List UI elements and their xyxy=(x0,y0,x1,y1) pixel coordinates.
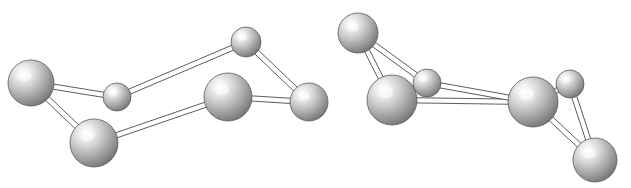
atom-medium-bottom-right-sphere xyxy=(573,138,617,182)
atom-large-right-sphere xyxy=(508,77,558,127)
atom-medium-right-edge-sphere xyxy=(290,83,328,121)
atom-large-center-right xyxy=(204,73,252,121)
atom-small-top-highlight xyxy=(238,34,247,41)
atom-small-left-inner-highlight xyxy=(419,76,427,82)
atom-large-upper-left-sphere xyxy=(8,60,54,106)
atom-large-lower-left-highlight xyxy=(81,131,95,142)
atom-medium-top-left-sphere xyxy=(338,13,378,53)
atom-large-left xyxy=(367,75,417,125)
atom-medium-top-left-highlight xyxy=(347,23,359,32)
atom-medium-right-edge xyxy=(290,83,328,121)
atom-small-upper-mid-sphere xyxy=(103,83,131,111)
atom-large-upper-left-highlight xyxy=(18,71,32,81)
atom-large-center-right-sphere xyxy=(204,73,252,121)
atom-small-right-inner xyxy=(556,70,584,98)
atom-large-center-right-highlight xyxy=(215,85,229,96)
atom-large-left-sphere xyxy=(367,75,417,125)
atom-small-right-inner-highlight xyxy=(562,77,570,83)
atom-large-lower-left xyxy=(70,119,118,167)
atom-small-right-inner-sphere xyxy=(556,70,584,98)
atom-small-top-sphere xyxy=(231,27,261,57)
atom-small-upper-mid xyxy=(103,83,131,111)
molecular-structure-figure xyxy=(0,0,631,188)
atom-large-left-highlight xyxy=(378,87,393,98)
atom-large-upper-left xyxy=(8,60,54,106)
atom-medium-top-left xyxy=(338,13,378,53)
atom-large-right xyxy=(508,77,558,127)
atom-medium-bottom-right xyxy=(573,138,617,182)
atom-small-upper-mid-highlight xyxy=(109,90,117,96)
atom-small-left-inner xyxy=(413,69,441,97)
atom-large-right-highlight xyxy=(519,89,534,100)
atom-medium-right-edge-highlight xyxy=(298,92,309,100)
atom-small-top xyxy=(231,27,261,57)
bond-R2-R4 xyxy=(414,98,510,105)
atom-small-left-inner-sphere xyxy=(413,69,441,97)
atom-large-lower-left-sphere xyxy=(70,119,118,167)
atom-medium-bottom-right-highlight xyxy=(583,149,596,159)
